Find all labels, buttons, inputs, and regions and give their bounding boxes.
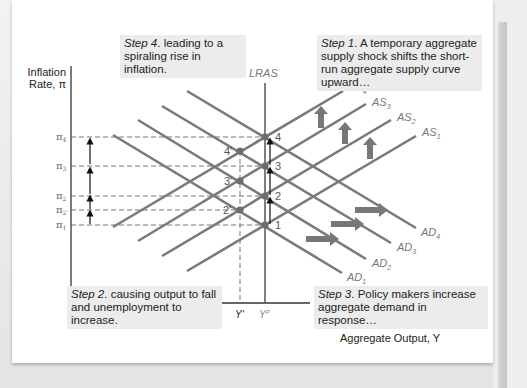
step4-title: Step 4 (124, 37, 157, 49)
svg-text:π2: π2 (56, 190, 67, 202)
equilibrium-points (236, 133, 268, 228)
x-axis-label: Aggregate Output, Y (340, 332, 470, 344)
step3-title: Step 3 (318, 288, 351, 300)
dashed-guides (71, 137, 265, 303)
x-tick-labels: Y' YP (235, 309, 270, 320)
svg-text:2: 2 (275, 190, 281, 202)
svg-text:AD3: AD3 (396, 241, 416, 255)
svg-text:π2': π2' (56, 204, 68, 216)
svg-text:AS2: AS2 (396, 111, 416, 125)
y-tick-labels: π4 π3 π2 π2' π1 (56, 131, 68, 231)
svg-text:π4: π4 (56, 131, 67, 143)
step1-title: Step 1 (321, 37, 354, 49)
svg-text:3: 3 (275, 160, 281, 172)
svg-text:4: 4 (275, 131, 281, 143)
svg-text:π1: π1 (56, 219, 66, 231)
step2-title: Step 2 (71, 288, 104, 300)
as1-line (187, 136, 416, 271)
svg-text:AS1: AS1 (421, 126, 441, 140)
svg-text:AD4: AD4 (420, 226, 440, 240)
svg-text:AD1: AD1 (346, 271, 366, 285)
svg-text:AD2: AD2 (371, 257, 391, 271)
svg-text:π3: π3 (56, 160, 67, 172)
y-axis-label-line1: Inflation (24, 66, 66, 78)
svg-text:YP: YP (259, 309, 270, 320)
svg-text:2': 2' (223, 204, 231, 216)
svg-text:1: 1 (275, 219, 281, 231)
svg-text:4': 4' (224, 145, 232, 157)
step1-note: Step 1. A temporary aggregate supply sho… (317, 35, 482, 91)
step4-note: Step 4. leading to a spiraling rise in i… (120, 35, 246, 78)
svg-text:Y': Y' (235, 309, 245, 320)
svg-text:LRAS: LRAS (249, 67, 278, 79)
y-axis-label: Inflation Rate, π (24, 66, 66, 90)
svg-text:AS3: AS3 (371, 96, 391, 110)
step3-note: Step 3. Policy makers increase aggregate… (314, 286, 488, 329)
as3-line (138, 104, 366, 241)
y-axis-label-line2: Rate, π (24, 78, 66, 90)
svg-text:3': 3' (224, 175, 232, 187)
ad-shift-arrows (306, 203, 388, 246)
step2-note: Step 2. causing output to fall and unemp… (67, 286, 222, 329)
